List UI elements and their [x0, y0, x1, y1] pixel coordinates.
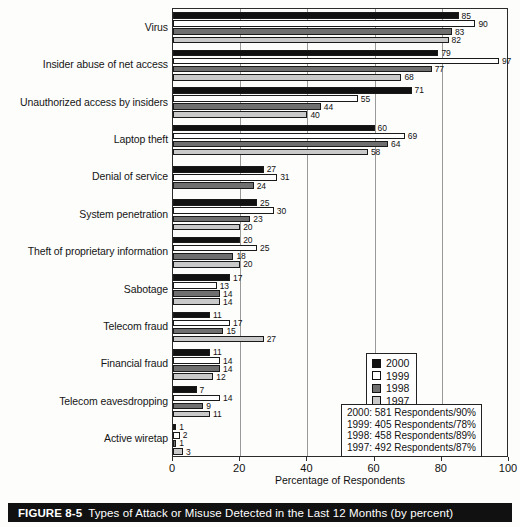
category-axis-labels: VirusInsider abuse of net accessUnauthor… — [0, 8, 168, 457]
bar-value-label: 60 — [378, 124, 387, 132]
category-label: Virus — [145, 21, 168, 33]
x-axis-title: Percentage of Respondents — [172, 474, 508, 486]
respondents-line: 1999: 405 Respondents/78% — [347, 419, 476, 431]
bar-1997 — [173, 261, 240, 268]
bar-1999 — [173, 174, 277, 181]
bar-1997 — [173, 298, 220, 305]
legend-swatch-icon — [372, 384, 381, 393]
bar-1999 — [173, 395, 220, 402]
legend-swatch-icon — [372, 371, 381, 380]
bar-1998 — [173, 253, 233, 260]
bar-group: 17131414 — [173, 271, 507, 308]
bar-group: 79977768 — [173, 46, 507, 83]
category-label: Telecom eavesdropping — [59, 395, 168, 407]
plot-area: 8590838279977768715544406069645827312425… — [172, 8, 508, 457]
respondents-note: 2000: 581 Respondents/90%1999: 405 Respo… — [341, 404, 482, 457]
bar-value-label: 25 — [260, 199, 269, 207]
bar-1999 — [173, 282, 217, 289]
bar-1997 — [173, 74, 401, 81]
bar-1998 — [173, 440, 176, 447]
bar-value-label: 17 — [233, 274, 242, 282]
legend-label: 2000 — [386, 357, 409, 369]
bar-1998 — [173, 328, 223, 335]
bar-1999 — [173, 58, 499, 65]
bar-value-label: 3 — [186, 448, 191, 456]
bar-value-label: 90 — [478, 20, 487, 28]
bar-value-label: 77 — [435, 65, 444, 73]
bar-1999 — [173, 95, 358, 102]
bar-value-label: 25 — [260, 244, 269, 252]
bar-value-label: 1 — [179, 439, 184, 447]
bar-value-label: 58 — [371, 148, 380, 156]
category-label: Active wiretap — [104, 432, 168, 444]
bar-group: 60696458 — [173, 121, 507, 158]
x-tick-label: 20 — [233, 462, 245, 474]
respondents-line: 2000: 581 Respondents/90% — [347, 407, 476, 419]
bar-2000 — [173, 424, 176, 431]
bar-value-label: 24 — [257, 182, 266, 190]
bar-1997 — [173, 224, 240, 231]
bar-value-label: 69 — [408, 132, 417, 140]
category-label: Telecom fraud — [103, 320, 168, 332]
bar-2000 — [173, 125, 375, 132]
figure-caption-text: Types of Attack or Misuse Detected in th… — [88, 507, 453, 519]
bar-value-label: 12 — [216, 373, 225, 381]
x-tick-label: 80 — [435, 462, 447, 474]
bar-value-label: 11 — [213, 348, 222, 356]
bar-1997 — [173, 411, 210, 418]
legend-item-1999: 1999 — [372, 370, 409, 383]
bar-2000 — [173, 12, 459, 19]
figure-page: VirusInsider abuse of net accessUnauthor… — [0, 0, 520, 527]
bar-value-label: 68 — [404, 73, 413, 81]
bar-1998 — [173, 290, 220, 297]
respondents-line: 1997: 492 Respondents/87% — [347, 442, 476, 454]
bar-2000 — [173, 237, 240, 244]
category-label: Laptop theft — [114, 133, 168, 145]
bar-value-label: 27 — [267, 165, 276, 173]
category-label: Sabotage — [124, 283, 168, 295]
bar-group: 85908382 — [173, 9, 507, 46]
bar-value-label: 64 — [391, 140, 400, 148]
x-tick — [172, 457, 173, 461]
figure-number: FIGURE 8-5 — [18, 507, 82, 519]
x-tick — [239, 457, 240, 461]
bar-value-label: 9 — [206, 402, 211, 410]
legend: 2000199919981997 — [366, 353, 417, 411]
bar-value-label: 97 — [502, 57, 511, 65]
category-label: Financial fraud — [101, 357, 168, 369]
bar-value-label: 85 — [462, 12, 471, 20]
bar-value-label: 82 — [452, 36, 461, 44]
bar-1997 — [173, 111, 307, 118]
bar-group: 20251820 — [173, 234, 507, 271]
bar-value-label: 20 — [243, 260, 252, 268]
bar-value-label: 14 — [223, 298, 232, 306]
x-tick-label: 0 — [169, 462, 175, 474]
category-label: System penetration — [79, 208, 168, 220]
bar-1997 — [173, 37, 449, 44]
x-tick — [441, 457, 442, 461]
bar-group: 11171527 — [173, 308, 507, 345]
x-tick — [508, 457, 509, 461]
bar-1997 — [173, 373, 213, 380]
bar-group: 25302320 — [173, 196, 507, 233]
bar-1997 — [173, 336, 264, 343]
bar-2000 — [173, 87, 412, 94]
bar-value-label: 7 — [200, 386, 205, 394]
respondents-line: 1998: 458 Respondents/89% — [347, 430, 476, 442]
bar-1998 — [173, 141, 388, 148]
bar-value-label: 31 — [280, 173, 289, 181]
bar-1999 — [173, 357, 220, 364]
bar-2000 — [173, 50, 438, 57]
bar-group: 11141412 — [173, 346, 507, 383]
bar-value-label: 71 — [415, 86, 424, 94]
bar-1997 — [173, 448, 183, 455]
bar-1998 — [173, 103, 321, 110]
bar-value-label: 20 — [243, 223, 252, 231]
bar-value-label: 20 — [243, 236, 252, 244]
category-label: Insider abuse of net access — [43, 58, 168, 70]
bar-2000 — [173, 199, 257, 206]
bar-1998 — [173, 182, 254, 189]
legend-item-1998: 1998 — [372, 382, 409, 395]
bar-chart: VirusInsider abuse of net accessUnauthor… — [0, 0, 520, 492]
bar-value-label: 79 — [441, 49, 450, 57]
